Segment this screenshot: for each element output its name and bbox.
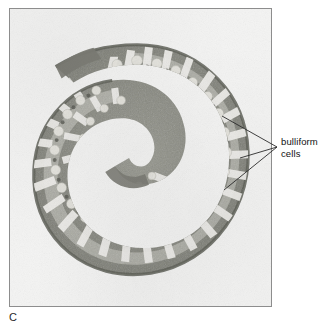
figure-panel: bulliformcells C <box>0 0 324 323</box>
bulliform-cells-label-line1: bulliform <box>281 136 318 147</box>
micrograph-frame <box>9 8 272 307</box>
figure-letter: C <box>9 311 17 323</box>
bulliform-cells-label-line2: cells <box>281 148 301 159</box>
bulliform-cells-label: bulliformcells <box>281 136 318 159</box>
micrograph-image <box>10 9 271 306</box>
